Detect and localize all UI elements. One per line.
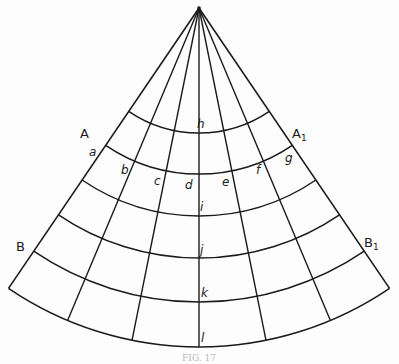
label-k: k (201, 286, 209, 300)
label-A1: A1 (292, 126, 307, 143)
label-d: d (185, 178, 193, 192)
label-b: b (121, 163, 129, 177)
label-c: c (154, 174, 161, 188)
label-a: a (89, 145, 96, 159)
label-l: l (201, 331, 205, 345)
label-h: h (197, 117, 205, 131)
label-f: f (256, 163, 262, 177)
label-B: B (16, 239, 25, 254)
label-g: g (285, 151, 293, 165)
conic-projection-figure: A a b c d e f g A1 h i j k l B B1 FIG. 1… (0, 0, 399, 364)
label-i: i (200, 200, 204, 214)
label-B1: B1 (364, 235, 379, 252)
label-A: A (80, 126, 89, 141)
label-j: j (198, 243, 204, 257)
label-layer: A a b c d e f g A1 h i j k l B B1 FIG. 1… (0, 0, 399, 364)
label-e: e (222, 175, 229, 189)
figure-caption: FIG. 17 (182, 353, 216, 363)
